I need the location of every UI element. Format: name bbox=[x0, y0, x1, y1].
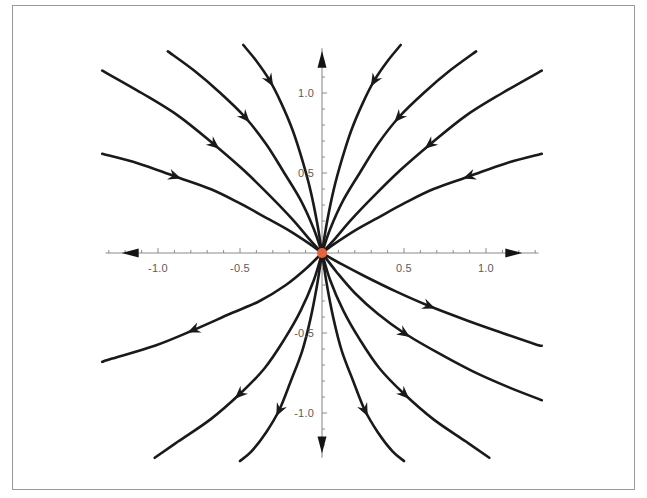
trajectory-arrowhead bbox=[262, 72, 273, 86]
trajectory-curve bbox=[322, 154, 542, 253]
trajectory-curve bbox=[155, 253, 322, 458]
y-tick-label: -0.5 bbox=[286, 327, 314, 339]
trajectory bbox=[322, 253, 542, 400]
y-axis-arrow-up bbox=[318, 51, 327, 68]
trajectory bbox=[240, 253, 322, 461]
trajectory bbox=[102, 253, 322, 362]
phase-portrait-canvas bbox=[0, 0, 647, 498]
y-tick-label: 1.0 bbox=[286, 87, 314, 99]
phase-portrait-figure: -1.0-0.50.51.0-1.0-0.50.51.0 bbox=[0, 0, 647, 498]
trajectory-curve bbox=[322, 253, 404, 461]
trajectory bbox=[322, 253, 404, 461]
trajectory bbox=[155, 253, 322, 458]
x-tick-label: 1.0 bbox=[478, 262, 494, 274]
trajectory-curve bbox=[102, 253, 322, 362]
equilibrium-point bbox=[317, 248, 327, 258]
trajectory-curve bbox=[240, 253, 322, 461]
y-tick-label: 0.5 bbox=[286, 167, 314, 179]
x-axis-arrow-right bbox=[505, 249, 522, 258]
x-tick-label: -0.5 bbox=[230, 262, 250, 274]
trajectory-curve bbox=[322, 253, 542, 400]
y-tick-label: -1.0 bbox=[286, 407, 314, 419]
trajectory bbox=[322, 154, 542, 253]
x-tick-label: -1.0 bbox=[148, 262, 168, 274]
trajectory-arrowhead bbox=[396, 325, 410, 337]
y-axis-arrow-down bbox=[318, 437, 327, 454]
x-axis-arrow-left bbox=[122, 249, 139, 258]
x-tick-label: 0.5 bbox=[396, 262, 412, 274]
trajectory-arrowhead bbox=[371, 72, 382, 86]
